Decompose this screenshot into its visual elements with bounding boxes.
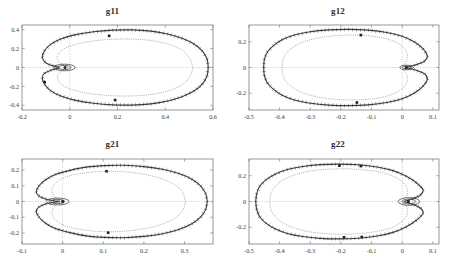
y-tick-label: 0 <box>243 198 246 205</box>
panel-g12: g12 -0.5-0.4-0.3-0.2-0.100.1-0.200.2 <box>225 0 451 133</box>
plot-svg-g21: -0.100.10.20.3-0.2-0.100.10.2 <box>0 133 225 267</box>
data-marker <box>356 101 359 104</box>
data-marker <box>338 164 341 167</box>
plot-svg-g11: -0.200.20.40.6-0.4-0.200.20.4 <box>0 0 225 133</box>
data-marker <box>64 66 67 69</box>
y-tick-label: 0 <box>16 64 19 71</box>
y-tick-label: -0.2 <box>9 83 19 90</box>
x-tick-label: 0.3 <box>181 247 189 254</box>
data-marker <box>407 200 410 203</box>
data-marker <box>43 81 46 84</box>
y-tick-label: 0 <box>243 64 246 71</box>
x-tick-label: -0.2 <box>336 113 346 120</box>
data-marker <box>405 66 408 69</box>
y-tick-label: -0.2 <box>236 89 246 96</box>
x-tick-label: -0.2 <box>17 113 27 120</box>
series-inner-value-set-boundary <box>282 35 407 100</box>
hatch-tick-group <box>254 162 425 240</box>
x-tick-label: 0.2 <box>140 247 148 254</box>
y-tick-label: -0.2 <box>236 223 246 230</box>
y-tick-label: -0.4 <box>9 101 19 108</box>
x-tick-label: 0 <box>61 247 64 254</box>
data-marker <box>360 165 363 168</box>
y-tick-label: 0.2 <box>11 166 19 173</box>
x-tick-label: 0.1 <box>429 113 437 120</box>
panel-g22: g22 -0.5-0.4-0.3-0.2-0.100.1-0.200.2 <box>225 133 451 267</box>
y-tick-label: 0.2 <box>238 38 246 45</box>
plot-svg-g12: -0.5-0.4-0.3-0.2-0.100.1-0.200.2 <box>225 0 451 133</box>
x-tick-label: 0.4 <box>161 113 169 120</box>
y-tick-label: -0.1 <box>9 213 19 220</box>
y-tick-label: 0 <box>16 198 19 205</box>
y-tick-label: 0.2 <box>11 45 19 52</box>
x-tick-label: 0 <box>68 113 71 120</box>
x-tick-label: 0 <box>401 113 404 120</box>
x-tick-label: -0.1 <box>367 247 377 254</box>
x-tick-label: -0.1 <box>17 247 27 254</box>
x-tick-label: -0.1 <box>367 113 377 120</box>
x-tick-label: -0.4 <box>275 113 285 120</box>
data-marker <box>107 231 110 234</box>
x-tick-label: -0.5 <box>244 247 254 254</box>
x-tick-label: 0.1 <box>429 247 437 254</box>
panel-g11: g11 -0.200.20.40.6-0.4-0.200.20.4 <box>0 0 225 133</box>
y-tick-label: 0.4 <box>11 26 19 33</box>
figure-panel-grid: g11 -0.200.20.40.6-0.4-0.200.20.4 g12 -0… <box>0 0 451 267</box>
data-marker <box>105 170 108 173</box>
data-marker <box>360 236 363 239</box>
panel-g21: g21 -0.100.10.20.3-0.2-0.100.10.2 <box>0 133 225 267</box>
data-marker <box>360 34 363 37</box>
x-tick-label: 0.6 <box>209 113 217 120</box>
x-tick-label: -0.2 <box>336 247 346 254</box>
y-tick-label: 0.1 <box>11 182 19 189</box>
x-tick-label: -0.3 <box>305 113 315 120</box>
x-tick-label: 0 <box>401 247 404 254</box>
x-tick-label: -0.3 <box>305 247 315 254</box>
x-tick-label: -0.4 <box>275 247 285 254</box>
y-tick-label: -0.2 <box>9 229 19 236</box>
y-tick-label: 0.2 <box>238 172 246 179</box>
data-marker <box>343 236 346 239</box>
data-marker <box>61 200 64 203</box>
x-tick-label: 0.2 <box>114 113 122 120</box>
plot-svg-g22: -0.5-0.4-0.3-0.2-0.100.1-0.200.2 <box>225 133 451 267</box>
x-tick-label: -0.5 <box>244 113 254 120</box>
data-marker <box>114 99 117 102</box>
x-tick-label: 0.1 <box>99 247 107 254</box>
data-marker <box>108 35 111 38</box>
